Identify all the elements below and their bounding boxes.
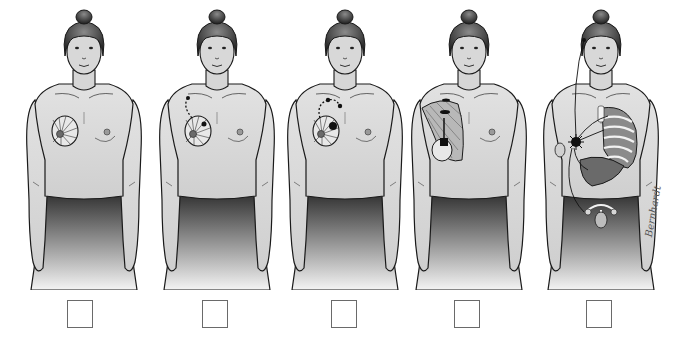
stage-5-checkbox[interactable] [586,300,612,328]
figure-stage-2 [148,0,286,290]
woman-illustration [15,0,153,290]
stage-2-checkbox[interactable] [202,300,228,328]
figure-stage-1 [15,0,153,290]
figure-stage-4 [400,0,538,290]
woman-illustration [532,0,670,290]
tumor-icon [329,122,337,130]
tumor-icon [440,138,448,146]
stage-3-checkbox[interactable] [331,300,357,328]
woman-illustration [400,0,538,290]
stage-4-checkbox[interactable] [454,300,480,328]
tumor-icon [202,122,207,127]
figure-stage-3 [276,0,414,290]
uterus [595,212,607,228]
figure-stage-5 [532,0,670,290]
stage-1-checkbox[interactable] [67,300,93,328]
woman-illustration [276,0,414,290]
woman-illustration [148,0,286,290]
